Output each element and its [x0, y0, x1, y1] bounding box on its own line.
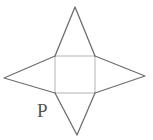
pyramid-net-figure: P	[0, 0, 153, 140]
net-square-face	[55, 56, 95, 93]
net-triangle-left	[4, 56, 55, 93]
net-triangle-top	[55, 7, 95, 56]
vertex-label-p: P	[37, 101, 48, 120]
net-triangle-right	[95, 56, 145, 93]
pyramid-net-svg	[0, 0, 153, 140]
net-triangle-bottom	[55, 93, 95, 135]
